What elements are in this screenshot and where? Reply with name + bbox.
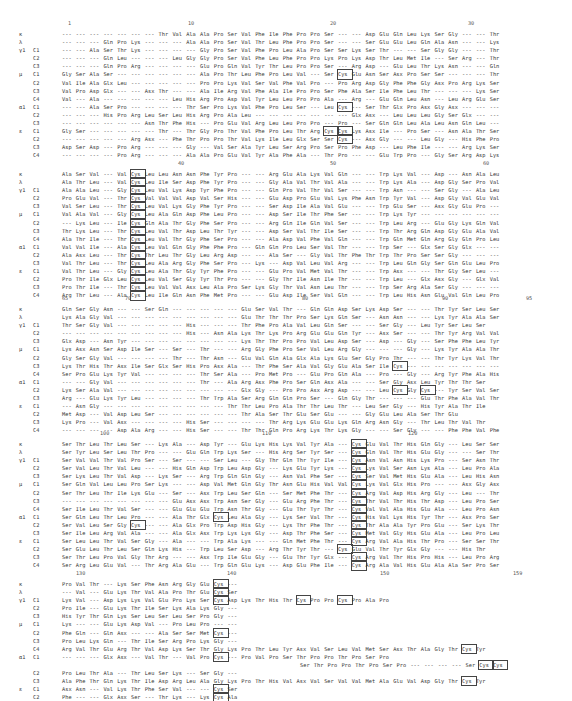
sequence-row: λ---Val---GluLysThrValAlaProThrGluCysSer [0,588,572,596]
residue: --- [159,386,173,394]
residue: --- [241,170,255,178]
residue: Pro [324,370,338,378]
residue: Leu [145,227,159,235]
residue: --- [103,202,117,210]
residue: Glu [476,194,490,202]
residue: His [407,505,421,513]
residue: Thr [103,472,117,480]
residue: Phe [310,537,324,545]
residue: Ile [90,283,104,291]
residue: Pro [214,46,228,54]
cysteine-residue: Cys [214,588,228,596]
residue: Lys [131,38,145,46]
hinge-insert-row: SerThrProProThrProSerPro------------SerC… [0,661,572,669]
residue: --- [407,305,421,313]
residue: Val [297,440,311,448]
residue: Thr [462,378,476,386]
residue: Arg [131,143,145,151]
residue: Leu [269,645,283,653]
residue: Ala [476,345,490,353]
residue: Leu [90,259,104,267]
residue: Gly [448,30,462,38]
residue: Gly [379,79,393,87]
residue: --- [214,620,228,628]
residue: Thr [310,402,324,410]
residue: Ala [159,629,173,637]
residue: Phe [352,194,366,202]
residue: Gly [200,127,214,135]
residue: Ser [76,202,90,210]
residue: Leu [462,497,476,505]
residue: --- [145,70,159,78]
residue: His [269,677,283,685]
residue: Val [255,653,269,661]
residue: --- [338,62,352,70]
residues: Phe------GlxAsxSer---ThrLys---LysCysAla [62,693,241,701]
domain-label: C2 [33,194,39,202]
residue: Ala [435,38,449,46]
residue: Asx [145,135,159,143]
residue: Pro [310,119,324,127]
residue: Pro [310,596,324,604]
residue: --- [159,70,173,78]
residue: --- [214,305,228,313]
residue: Trp [214,497,228,505]
residue: Pro [476,505,490,513]
residue: --- [62,653,76,661]
residue: --- [255,202,269,210]
chain-label: κ [19,580,29,588]
residue: Met [366,529,380,537]
residue: --- [297,370,311,378]
residue: His [407,529,421,537]
residue: Asp [435,194,449,202]
residue: --- [103,30,117,38]
residue: --- [172,151,186,159]
residue: Phe [62,693,76,701]
residue: Gly [200,46,214,54]
residue: His [90,362,104,370]
residue: Thr [228,70,242,78]
residue: Arg [366,553,380,561]
residue: Glu [283,505,297,513]
position-number: 110 [262,430,271,436]
residue: Gly [90,305,104,313]
residue: Asp [269,210,283,218]
residue: Leu [90,513,104,521]
residue: His [241,521,255,529]
residue: Phe [200,202,214,210]
residue: Thr [145,553,159,561]
residue: Ser [462,386,476,394]
domain-label: C1 [33,402,39,410]
residue: Pro [338,79,352,87]
residue: Leu [145,186,159,194]
residue: Met [407,54,421,62]
residue: --- [255,219,269,227]
residue: --- [159,505,173,513]
residue: Lys [435,313,449,321]
residue: Ser [324,46,338,54]
residue: Gly [393,418,407,426]
residue: --- [90,604,104,612]
residue: --- [393,46,407,54]
residue: --- [145,529,159,537]
residue: Gln [310,378,324,386]
residue: --- [448,529,462,537]
residue: Asx [407,378,421,386]
residue: Asx [145,87,159,95]
residue: Asp [186,194,200,202]
residue: Val [379,464,393,472]
residue: Thr [186,588,200,596]
residue: Ser [145,345,159,353]
residue: --- [297,251,311,259]
residue: Val [62,79,76,87]
residue: His [407,561,421,569]
residue: Ser [159,604,173,612]
residue: Val [310,362,324,370]
residue: --- [269,489,283,497]
residue: Ala [324,440,338,448]
residue: Asx [186,283,200,291]
residue: Met [200,629,214,637]
residue: Gly [393,529,407,537]
residue: --- [145,693,159,701]
residue: Ser [324,529,338,537]
